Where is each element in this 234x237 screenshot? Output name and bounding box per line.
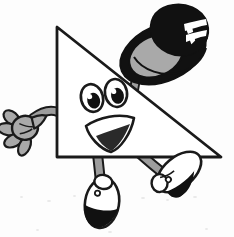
glove-cuff [31,114,48,128]
illustration-canvas [0,0,234,237]
hat-crown-group [151,5,208,56]
triangle-character-artwork [0,0,234,237]
left-shoe-eyelet [95,190,101,196]
left-shoe [77,172,127,235]
